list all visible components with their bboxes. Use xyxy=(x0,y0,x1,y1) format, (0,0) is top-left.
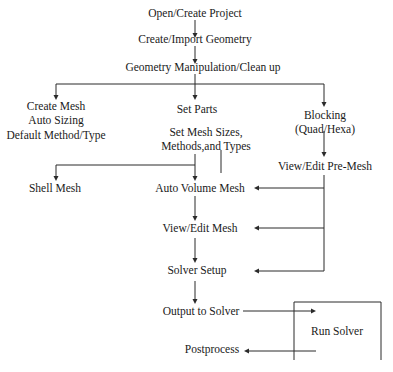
arrow-icon xyxy=(322,152,327,157)
node-auto-volume-mesh: Auto Volume Mesh xyxy=(155,181,245,195)
node-default-method-type: Default Method/Type xyxy=(6,128,105,142)
node-create-mesh: Create Mesh xyxy=(27,99,85,113)
node-shell-mesh: Shell Mesh xyxy=(29,181,81,195)
arrow-icon xyxy=(254,186,259,191)
node-postprocess: Postprocess xyxy=(185,342,239,356)
node-methods-and-types: Methods,and Types xyxy=(161,139,251,153)
arrow-icon xyxy=(254,226,259,231)
node-create-import-geometry: Create/Import Geometry xyxy=(138,32,251,46)
node-run-solver: Run Solver xyxy=(311,324,363,338)
node-auto-sizing: Auto Sizing xyxy=(28,113,83,127)
node-view-edit-mesh: View/Edit Mesh xyxy=(162,221,237,235)
arrow-icon xyxy=(193,95,198,100)
node-solver-setup: Solver Setup xyxy=(167,263,226,277)
node-blocking: Blocking xyxy=(304,108,346,122)
arrow-icon xyxy=(311,309,316,314)
arrow-icon xyxy=(244,349,249,354)
node-view-edit-premesh: View/Edit Pre-Mesh xyxy=(278,159,372,173)
flowchart: Open/Create Project Create/Import Geomet… xyxy=(0,0,393,372)
arrow-icon xyxy=(322,102,327,107)
arrow-icon xyxy=(254,269,259,274)
node-geometry-manipulation: Geometry Manipulation/Clean up xyxy=(125,60,280,74)
node-output-to-solver: Output to Solver xyxy=(163,304,240,318)
node-open-create-project: Open/Create Project xyxy=(148,6,242,20)
node-quad-hexa: (Quad/Hexa) xyxy=(295,122,355,136)
node-set-mesh-sizes: Set Mesh Sizes, xyxy=(169,125,242,139)
node-set-parts: Set Parts xyxy=(177,102,218,116)
